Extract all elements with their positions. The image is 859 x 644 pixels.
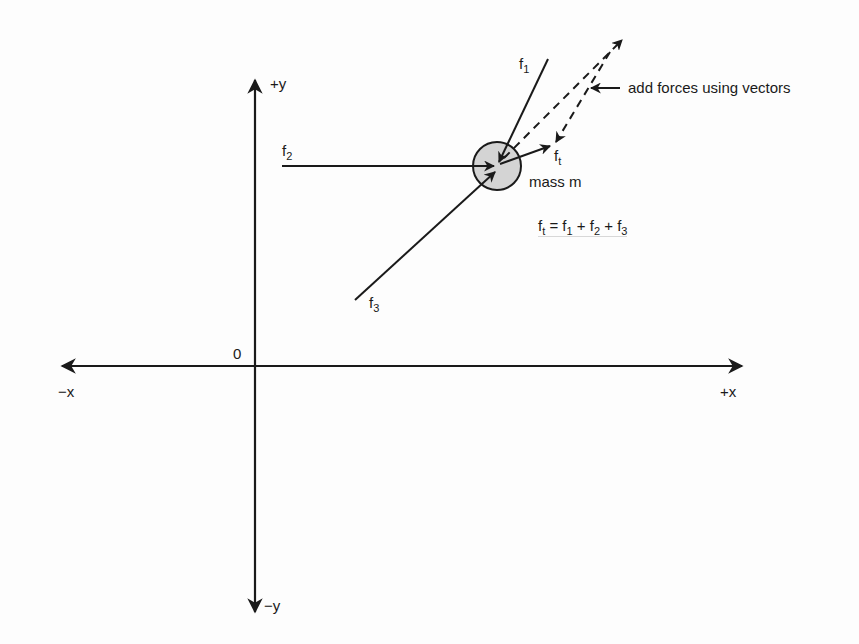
force-vector-f3 — [355, 172, 495, 300]
y-neg-label: −y — [264, 598, 280, 613]
origin-label: 0 — [233, 346, 241, 361]
y-pos-label: +y — [270, 76, 286, 91]
force-label-f3: f3 — [369, 295, 379, 310]
force-label-f2: f2 — [282, 143, 292, 158]
force-equation: ft = f1 + f2 + f3 — [538, 218, 627, 237]
diagram-graphics — [0, 0, 859, 644]
x-pos-label: +x — [720, 384, 736, 399]
force-label-f1: f1 — [519, 56, 529, 71]
x-neg-label: −x — [58, 384, 74, 399]
force-diagram: +y −y −x +x 0 f1 f2 f3 ft mass m add for… — [0, 0, 859, 644]
force-label-ft: ft — [554, 148, 561, 163]
mass-label: mass m — [529, 174, 582, 189]
annotation-text: add forces using vectors — [628, 80, 791, 95]
